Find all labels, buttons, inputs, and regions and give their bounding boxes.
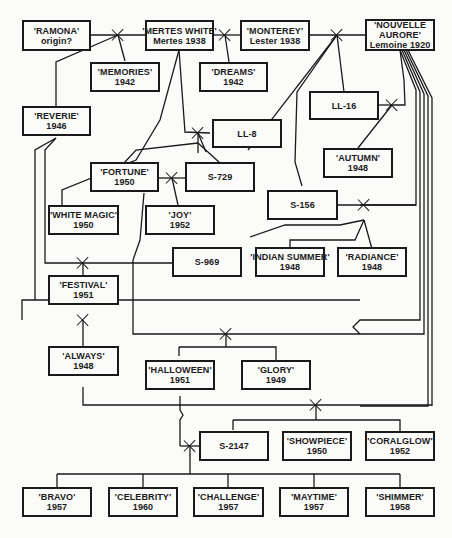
- node-info: Lester 1938: [250, 36, 301, 46]
- node-ll8: LL-8: [212, 119, 282, 148]
- node-info: 1950: [114, 177, 134, 187]
- node-name: 'RADIANCE': [346, 252, 399, 262]
- node-name: 'HALLOWEEN': [148, 365, 211, 375]
- node-info: 1942: [115, 77, 135, 87]
- node-info: Mertes 1938: [153, 36, 206, 46]
- node-info: 1960: [133, 502, 153, 512]
- node-name: 'MAYTIME': [291, 492, 337, 502]
- node-name: 'AUTUMN': [336, 153, 380, 163]
- node-name: 'SHOWPIECE': [287, 436, 347, 446]
- node-always: 'ALWAYS' 1948: [48, 346, 119, 376]
- node-festival: 'FESTIVAL' 1951: [48, 275, 119, 305]
- cross-marker-icon: [357, 198, 371, 212]
- node-name: 'RAMONA': [34, 26, 80, 36]
- cross-marker-icon: [111, 28, 125, 42]
- cross-marker-icon: [183, 439, 197, 453]
- node-name: 'NOUVELLE: [374, 20, 426, 30]
- node-name: S-969: [195, 257, 220, 267]
- node-info: 1950: [73, 220, 93, 230]
- node-name: 'JOY': [169, 210, 192, 220]
- node-ramona: 'RAMONA' origin?: [22, 20, 91, 51]
- node-info: 1946: [46, 121, 66, 131]
- node-name: 'REVERIE': [34, 111, 79, 121]
- node-name: 'ALWAYS': [62, 351, 104, 361]
- node-info: 1950: [307, 446, 327, 456]
- node-name: S-2147: [219, 441, 249, 451]
- node-s156: S-156: [267, 190, 338, 220]
- node-info: origin?: [41, 36, 72, 46]
- cross-marker-icon: [76, 256, 90, 270]
- node-indian-summer: 'INDIAN SUMMER' 1948: [255, 247, 325, 277]
- node-memories: 'MEMORIES' 1942: [90, 62, 160, 92]
- node-name: 'CELEBRITY': [115, 492, 171, 502]
- node-name: 'DREAMS': [211, 67, 255, 77]
- node-dreams: 'DREAMS' 1942: [199, 62, 268, 92]
- node-name: 'MEMORIES': [98, 67, 152, 77]
- node-reverie: 'REVERIE' 1946: [22, 106, 91, 136]
- node-name: 'BRAVO': [39, 492, 76, 502]
- node-info: 1948: [362, 262, 382, 272]
- cross-marker-icon: [218, 28, 232, 42]
- node-celebrity: 'CELEBRITY' 1960: [108, 487, 178, 517]
- node-maytime: 'MAYTIME' 1957: [279, 487, 349, 517]
- node-autumn: 'AUTUMN' 1948: [323, 148, 393, 178]
- node-showpiece: 'SHOWPIECE' 1950: [282, 431, 352, 461]
- node-info: 1957: [218, 502, 238, 512]
- node-name: 'MONTEREY': [247, 26, 303, 36]
- node-name-line2: AURORE': [379, 30, 421, 40]
- cross-marker-icon: [219, 327, 233, 341]
- node-info: 1958: [390, 502, 410, 512]
- cross-marker-icon: [191, 126, 205, 140]
- cross-marker-icon: [309, 398, 323, 412]
- node-s2147: S-2147: [199, 431, 269, 461]
- node-ll16: LL-16: [309, 91, 379, 120]
- node-halloween: 'HALLOWEEN' 1951: [145, 360, 215, 390]
- node-info: 1949: [266, 375, 286, 385]
- cross-marker-icon: [330, 28, 344, 42]
- node-name: S-729: [208, 172, 233, 182]
- node-info: 1957: [47, 502, 67, 512]
- node-name: 'FESTIVAL': [59, 280, 107, 290]
- node-info: 1951: [73, 290, 93, 300]
- node-challenge: 'CHALLENGE' 1957: [193, 487, 264, 517]
- node-fortune: 'FORTUNE' 1950: [90, 162, 159, 192]
- cross-marker-icon: [165, 171, 179, 185]
- node-info: 1948: [73, 361, 93, 371]
- node-info: 1948: [348, 163, 368, 173]
- node-name: 'MERTES WHITE': [142, 26, 217, 36]
- node-info: 1942: [223, 77, 243, 87]
- node-info: 1951: [170, 375, 190, 385]
- node-joy: 'JOY' 1952: [145, 205, 215, 235]
- node-shimmer: 'SHIMMER' 1958: [365, 487, 435, 517]
- node-name: 'CHALLENGE': [198, 492, 259, 502]
- node-info: 1952: [170, 220, 190, 230]
- node-info: 1948: [280, 262, 300, 272]
- node-info: 1957: [304, 502, 324, 512]
- node-name: 'SHIMMER': [376, 492, 424, 502]
- node-s969: S-969: [172, 247, 242, 277]
- node-monterey: 'MONTEREY' Lester 1938: [240, 20, 310, 51]
- node-radiance: 'RADIANCE' 1948: [337, 247, 407, 277]
- node-name: LL-8: [237, 129, 256, 139]
- node-name: LL-16: [332, 101, 357, 111]
- node-name: 'GLORY': [258, 365, 295, 375]
- node-glory: 'GLORY' 1949: [241, 360, 311, 390]
- node-name: 'INDIAN SUMMER': [250, 252, 329, 262]
- node-white-magic: 'WHITE MAGIC' 1950: [48, 205, 119, 235]
- node-coralglow: 'CORALGLOW' 1952: [365, 431, 435, 461]
- node-name: S-156: [290, 200, 315, 210]
- cross-marker-icon: [385, 98, 399, 112]
- node-name: 'FORTUNE': [100, 167, 149, 177]
- node-name: 'CORALGLOW': [367, 436, 432, 446]
- node-name: 'WHITE MAGIC': [50, 210, 117, 220]
- cross-marker-icon: [76, 313, 90, 327]
- node-s729: S-729: [185, 162, 255, 192]
- node-nouvelle-aurore: 'NOUVELLE AURORE' Lemoine 1920: [365, 19, 435, 51]
- node-mertes-white: 'MERTES WHITE' Mertes 1938: [145, 20, 214, 51]
- node-info: Lemoine 1920: [370, 40, 431, 50]
- node-bravo: 'BRAVO' 1957: [22, 487, 92, 517]
- node-info: 1952: [390, 446, 410, 456]
